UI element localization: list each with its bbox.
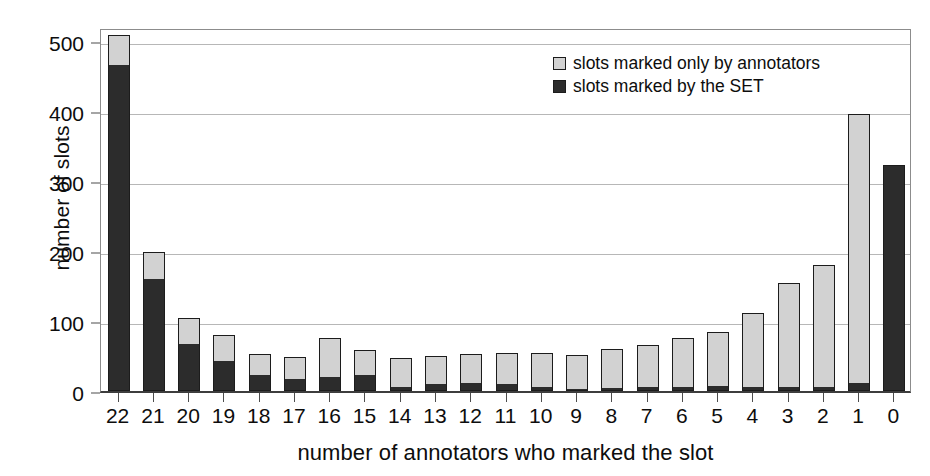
y-tick-mark-0 [91,393,100,394]
segment-annotators-only [391,359,411,387]
x-tick-label-6: 6 [676,405,688,426]
bar-11[interactable] [497,353,517,391]
bar-21[interactable] [144,252,164,391]
x-tick-label-3: 3 [782,405,794,426]
x-tick-label-4: 4 [746,405,758,426]
chart-legend: slots marked only by annotatorsslots mar… [553,53,820,96]
x-tick-mark-9 [576,393,577,402]
x-axis-title: number of annotators who marked the slot [100,440,911,466]
bar-4[interactable] [743,313,763,391]
bar-22[interactable] [109,35,129,391]
bar-stack [848,114,870,391]
x-tick-mark-5 [717,393,718,402]
segment-set [638,387,658,390]
bar-stack [354,350,376,391]
x-tick-label-14: 14 [388,405,411,426]
x-tick-mark-16 [329,393,330,402]
bar-5[interactable] [708,332,728,391]
bar-stack [742,313,764,391]
segment-set [285,379,305,390]
segment-annotators-only [285,358,305,379]
segment-set [567,389,587,390]
segment-set [849,383,869,390]
x-tick-mark-17 [294,393,295,402]
x-tick-label-17: 17 [282,405,305,426]
bar-7[interactable] [638,345,658,391]
segment-set [426,384,446,390]
segment-annotators-only [567,356,587,389]
segment-annotators-only [179,319,199,344]
x-tick-mark-1 [858,393,859,402]
bar-15[interactable] [355,350,375,391]
x-tick-label-11: 11 [495,405,517,426]
bar-stack [460,354,482,391]
bar-17[interactable] [285,357,305,391]
bar-2[interactable] [814,265,834,391]
bar-13[interactable] [426,356,446,391]
x-tick-mark-6 [682,393,683,402]
x-tick-label-12: 12 [459,405,482,426]
bar-stack [108,35,130,391]
bar-stack [496,353,518,391]
bar-16[interactable] [320,338,340,391]
segment-annotators-only [638,346,658,387]
x-tick-label-20: 20 [176,405,199,426]
segment-set [673,387,693,390]
bar-9[interactable] [567,355,587,391]
x-tick-label-16: 16 [318,405,341,426]
x-tick-mark-13 [435,393,436,402]
x-tick-mark-19 [223,393,224,402]
segment-set [355,375,375,390]
x-tick-label-2: 2 [817,405,829,426]
segment-set [743,387,763,390]
segment-set [497,384,517,390]
x-tick-mark-0 [893,393,894,402]
bar-20[interactable] [179,318,199,391]
bar-12[interactable] [461,354,481,391]
bar-3[interactable] [779,283,799,391]
segment-annotators-only [320,339,340,377]
segment-annotators-only [532,354,552,386]
legend-label: slots marked by the SET [573,76,764,96]
segment-set [144,279,164,390]
bar-19[interactable] [214,335,234,391]
segment-set [708,386,728,390]
legend-item-annot[interactable]: slots marked only by annotators [553,53,820,73]
x-tick-label-15: 15 [353,405,376,426]
segment-set [884,166,904,390]
legend-item-set[interactable]: slots marked by the SET [553,76,820,96]
segment-annotators-only [743,314,763,387]
bar-18[interactable] [250,354,270,391]
legend-swatch-set-icon [553,80,566,93]
bar-6[interactable] [673,338,693,391]
x-tick-mark-8 [611,393,612,402]
x-tick-mark-21 [153,393,154,402]
y-tick-mark-200 [91,253,100,254]
bar-stack [813,265,835,391]
bar-0[interactable] [884,165,904,391]
bar-8[interactable] [602,349,622,391]
y-tick-label-200: 200 [0,243,84,264]
y-axis-tick-group: 0100200300400500 [0,0,100,476]
bar-stack [566,355,588,391]
bar-10[interactable] [532,353,552,391]
legend-swatch-annot-icon [553,57,566,70]
y-tick-mark-300 [91,183,100,184]
segment-annotators-only [708,333,728,386]
bar-stack [672,338,694,391]
bar-14[interactable] [391,358,411,391]
x-tick-label-18: 18 [247,405,270,426]
segment-set [391,387,411,390]
x-tick-mark-2 [823,393,824,402]
segment-annotators-only [355,351,375,375]
bar-1[interactable] [849,114,869,391]
segment-annotators-only [426,357,446,384]
x-tick-label-22: 22 [106,405,129,426]
bar-stack [425,356,447,391]
bar-stack [284,357,306,391]
segment-annotators-only [602,350,622,388]
x-tick-mark-20 [188,393,189,402]
x-tick-mark-12 [470,393,471,402]
segment-annotators-only [849,115,869,383]
x-tick-mark-4 [752,393,753,402]
